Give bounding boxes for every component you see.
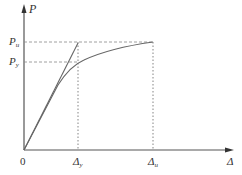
load-displacement-curve [24,42,153,150]
x-axis-arrow-icon [225,148,234,153]
y-axis-arrow-icon [22,4,27,13]
py-label: Py [9,56,19,69]
pu-label: Pu [9,36,19,49]
du-label: Δu [148,156,158,169]
origin-label: 0 [20,156,26,167]
diagram-canvas [0,0,242,175]
dy-label: Δy [73,156,83,169]
y-axis-label: P [29,3,36,15]
x-axis-label: Δ [227,156,233,167]
